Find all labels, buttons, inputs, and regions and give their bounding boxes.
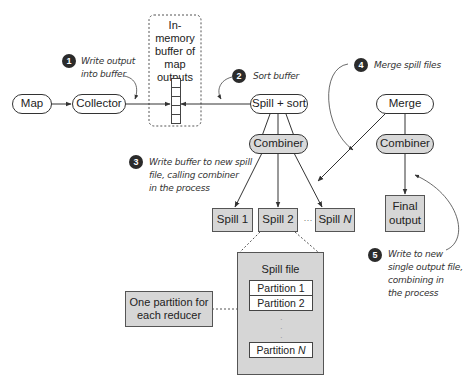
merge-node: Merge [376,94,434,114]
annotation-2-arrow [219,77,232,99]
partition-note: One partition for each reducer [125,291,213,327]
collector-node: Collector [72,94,126,114]
annotation-4-badge: 4 [354,58,368,72]
combiner-node-right: Combiner [376,134,434,154]
partition-1: Partition 1 [249,280,313,296]
spill-2-file: Spill 2 [258,208,298,232]
annotation-3-badge: 3 [129,155,143,169]
annotation-4-arrow [329,64,353,150]
annotation-1-text: Write outputinto buffer [81,55,135,81]
partition-dots: ··· [280,315,283,342]
annotation-5-text: Write to newsingle output file,combining… [388,248,463,300]
combiner-node-left: Combiner [249,134,308,154]
annotation-2-badge: 2 [232,69,246,83]
buffer-cell [171,114,181,124]
collector-label: Collector [76,97,121,110]
partition-list: Partition 1 Partition 2 ··· Partition N [249,280,313,370]
partition-n: Partition N [249,342,313,358]
map-label: Map [21,97,43,110]
buffer-stack [171,78,181,128]
spill-ellipsis: ··· [300,208,316,232]
spill-n-file: Spill N [315,208,355,232]
annotation-1-badge: 1 [62,54,76,68]
map-node: Map [12,94,52,114]
annotation-5-badge: 5 [368,248,382,262]
spill-sort-node: Spill + sort [250,94,308,114]
spill-1-file: Spill 1 [212,208,253,232]
final-output-file: Final output [385,195,425,232]
annotation-2-text: Sort buffer [253,70,299,83]
spill-file-detail: Spill file Partition 1 Partition 2 ··· P… [237,252,324,375]
buffer-title: In-memory buffer of map outputs [150,19,200,84]
annotation-3-text: Write buffer to new spillfile, calling c… [149,156,252,195]
spill-file-title: Spill file [238,263,323,276]
annotation-4-text: Merge spill files [374,59,441,72]
partition-2: Partition 2 [249,295,313,311]
